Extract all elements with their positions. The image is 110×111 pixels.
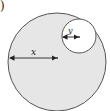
label-x: x [31, 47, 36, 57]
inner-circle [62, 19, 96, 53]
circle-diagram: x y [0, 0, 110, 111]
label-y: y [67, 26, 73, 35]
